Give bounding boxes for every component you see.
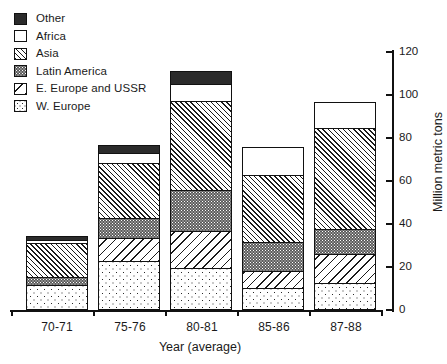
- y-tick-label-60: 60: [399, 175, 412, 187]
- y-axis-tick: [386, 51, 393, 53]
- y-axis-tick: [386, 309, 393, 311]
- x-tick-label-87-88: 87-88: [306, 320, 386, 334]
- x-axis-tick: [165, 310, 167, 316]
- bar-segment-asia-87-88: [314, 128, 376, 230]
- bar-segment-latin-america-85-86: [242, 242, 304, 272]
- bar-segment-w-europe-80-81: [170, 268, 232, 310]
- bar-segment-latin-america-87-88: [314, 229, 376, 255]
- bar-80-81: [170, 71, 232, 310]
- bar-segment-w-europe-87-88: [314, 283, 376, 310]
- chart-figure: Other Africa Asia Latin America E. Europ…: [0, 0, 447, 364]
- y-tick-label-20: 20: [399, 261, 412, 273]
- bar-segment-asia-75-76: [98, 163, 160, 219]
- y-tick-label-100: 100: [399, 89, 418, 101]
- y-tick-label-80: 80: [399, 132, 412, 144]
- bar-segment-w-europe-75-76: [98, 261, 160, 310]
- y-tick-label-40: 40: [399, 218, 412, 230]
- bar-segment-africa-87-88: [314, 102, 376, 129]
- bar-segment-asia-80-81: [170, 101, 232, 191]
- y-axis-tick: [386, 223, 393, 225]
- plot-area: 70-71 75-76 80-81 85-86 87-88 Year (aver…: [0, 0, 447, 364]
- bar-segment-e-europe-ussr-85-86: [242, 271, 304, 289]
- x-tick-label-75-76: 75-76: [90, 320, 170, 334]
- x-axis-tick: [93, 310, 95, 316]
- bar-segment-e-europe-ussr-80-81: [170, 231, 232, 269]
- y-axis-title: Million metric tons: [431, 112, 445, 212]
- x-axis-tick: [237, 310, 239, 316]
- bar-70-71: [26, 236, 88, 310]
- bar-segment-e-europe-ussr-75-76: [98, 238, 160, 262]
- bar-87-88: [314, 102, 376, 310]
- y-axis-tick: [386, 137, 393, 139]
- bar-segment-africa-85-86: [242, 147, 304, 176]
- x-axis-title: Year (average): [0, 340, 400, 354]
- y-tick-label-120: 120: [399, 46, 418, 58]
- x-axis-tick: [381, 310, 383, 316]
- x-axis-line: [10, 310, 382, 312]
- bar-75-76: [98, 145, 160, 310]
- x-tick-label-70-71: 70-71: [17, 320, 97, 334]
- bar-segment-latin-america-80-81: [170, 190, 232, 232]
- x-tick-label-85-86: 85-86: [234, 320, 314, 334]
- x-axis-tick: [309, 310, 311, 316]
- bar-segment-w-europe-70-71: [26, 285, 88, 310]
- y-tick-label-0: 0: [399, 304, 405, 316]
- bar-segment-e-europe-ussr-87-88: [314, 254, 376, 284]
- x-axis-tick: [11, 310, 13, 316]
- bar-segment-asia-70-71: [26, 243, 88, 278]
- bar-85-86: [242, 147, 304, 310]
- y-axis-tick: [386, 94, 393, 96]
- bar-segment-other-80-81: [170, 71, 232, 85]
- y-axis-tick: [386, 180, 393, 182]
- bar-segment-asia-85-86: [242, 175, 304, 243]
- y-axis-tick: [386, 266, 393, 268]
- bar-segment-w-europe-85-86: [242, 288, 304, 310]
- x-tick-label-80-81: 80-81: [162, 320, 242, 334]
- bar-segment-africa-80-81: [170, 84, 232, 102]
- bar-segment-latin-america-75-76: [98, 218, 160, 239]
